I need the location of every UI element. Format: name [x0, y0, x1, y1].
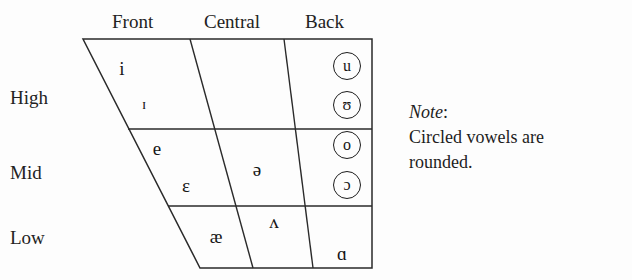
note-line-2: rounded.: [409, 150, 619, 175]
note-line-1: Circled vowels are: [409, 125, 619, 150]
vowel-low-front: æ: [210, 227, 223, 246]
column-divider-central-back: [284, 39, 313, 268]
vowel-mid-front-lax: ɛ: [182, 176, 190, 195]
vowel-high-back-tense: u: [333, 52, 361, 80]
note-label: Note: [409, 102, 443, 122]
vowel-mid-back-lax: ɔ: [333, 171, 361, 199]
trapezoid-outline: [83, 39, 372, 268]
vowel-mid-central: ə: [253, 160, 261, 179]
note-block: Note: Circled vowels are rounded.: [409, 100, 619, 175]
vowel-mid-back-tense: o: [333, 131, 361, 159]
vowel-chart-figure: Front Central Back High Mid Low i ɪ u ʊ …: [0, 0, 632, 280]
vowel-low-back: ɑ: [337, 244, 347, 263]
vowel-low-central: ʌ: [269, 212, 279, 231]
vowel-high-back-lax: ʊ: [333, 91, 361, 119]
note-heading: Note:: [409, 100, 619, 125]
vowel-high-front-lax: ɪ: [142, 97, 146, 112]
vowel-mid-front-tense: e: [153, 139, 161, 158]
vowel-high-front-tense: i: [119, 59, 124, 78]
note-colon: :: [443, 102, 448, 122]
